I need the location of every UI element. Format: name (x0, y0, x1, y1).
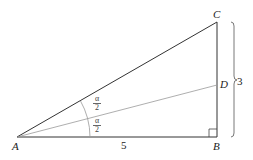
angle-lower-label: α 2 (93, 117, 101, 134)
triangle-diagram (0, 0, 253, 160)
angle-upper-numerator: α (93, 95, 101, 103)
point-label-D: D (220, 79, 228, 90)
angle-upper-label: α 2 (93, 95, 101, 112)
side-AB-length: 5 (121, 140, 127, 151)
side-BC-length: 3 (237, 76, 243, 87)
angle-lower-numerator: α (93, 117, 101, 125)
right-angle-marker (209, 129, 217, 137)
bisector-AD (17, 85, 217, 137)
angle-arc-upper (80, 101, 87, 118)
angle-arc-lower (88, 118, 91, 137)
hypotenuse-AC (17, 22, 217, 137)
angle-upper-denominator: 2 (93, 103, 101, 112)
point-label-A: A (12, 141, 19, 152)
point-label-C: C (213, 9, 220, 20)
angle-lower-denominator: 2 (93, 125, 101, 134)
point-label-B: B (213, 141, 220, 152)
